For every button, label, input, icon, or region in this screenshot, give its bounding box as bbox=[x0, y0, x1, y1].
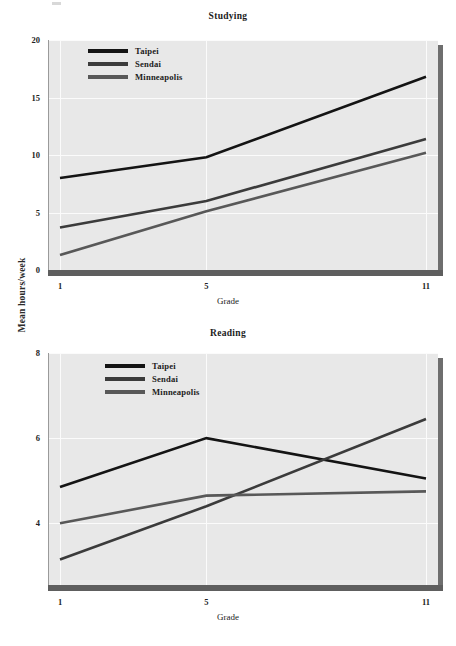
legend-label: Minneapolis bbox=[135, 72, 183, 82]
x-tick-label: 11 bbox=[411, 281, 441, 291]
legend-studying[interactable]: TaipeiSendaiMinneapolis bbox=[88, 44, 183, 83]
series-line-sendai bbox=[60, 419, 426, 559]
x-tick-label: 1 bbox=[45, 597, 75, 607]
legend-swatch-icon bbox=[88, 75, 128, 79]
y-tick-label: 6 bbox=[14, 433, 40, 443]
legend-swatch-icon bbox=[105, 377, 145, 381]
legend-swatch-icon bbox=[88, 62, 128, 66]
legend-item-sendai[interactable]: Sendai bbox=[88, 57, 183, 70]
legend-item-minneapolis[interactable]: Minneapolis bbox=[105, 385, 200, 398]
x-axis-label-reading: Grade bbox=[0, 612, 456, 622]
y-tick-label: 20 bbox=[14, 35, 40, 45]
y-axis-spine bbox=[48, 353, 49, 585]
x-axis-bar bbox=[48, 585, 443, 591]
chart-title-reading: Reading bbox=[0, 328, 456, 338]
y-tick-label: 0 bbox=[14, 265, 40, 275]
series-line-taipei bbox=[60, 77, 426, 178]
x-tick-label: 5 bbox=[191, 281, 221, 291]
x-axis-label-studying: Grade bbox=[0, 296, 456, 306]
x-tick-label: 5 bbox=[191, 597, 221, 607]
y-axis-spine bbox=[48, 40, 49, 270]
legend-item-sendai[interactable]: Sendai bbox=[105, 372, 200, 385]
x-axis-bar bbox=[48, 270, 443, 276]
legend-item-taipei[interactable]: Taipei bbox=[88, 44, 183, 57]
legend-swatch-icon bbox=[105, 364, 145, 368]
y-tick-label: 15 bbox=[14, 93, 40, 103]
chart-studying: Studying 05101520 1511 Grade TaipeiSenda… bbox=[0, 0, 456, 320]
y-tick-label: 5 bbox=[14, 208, 40, 218]
series-line-sendai bbox=[60, 139, 426, 228]
x-tick-label: 11 bbox=[411, 597, 441, 607]
legend-label: Sendai bbox=[152, 374, 178, 384]
legend-item-taipei[interactable]: Taipei bbox=[105, 359, 200, 372]
series-line-minneapolis bbox=[60, 153, 426, 255]
series-line-minneapolis bbox=[60, 491, 426, 523]
legend-label: Taipei bbox=[152, 361, 176, 371]
figure-canvas: Mean hours/week Studying 05101520 1511 G… bbox=[0, 0, 456, 646]
legend-swatch-icon bbox=[88, 49, 128, 53]
legend-label: Minneapolis bbox=[152, 387, 200, 397]
y-tick-label: 10 bbox=[14, 150, 40, 160]
legend-swatch-icon bbox=[105, 390, 145, 394]
y-tick-label: 4 bbox=[14, 518, 40, 528]
legend-item-minneapolis[interactable]: Minneapolis bbox=[88, 70, 183, 83]
legend-reading[interactable]: TaipeiSendaiMinneapolis bbox=[105, 359, 200, 398]
chart-title-studying: Studying bbox=[0, 11, 456, 21]
legend-label: Sendai bbox=[135, 59, 161, 69]
chart-reading: Reading 468 1511 Grade TaipeiSendaiMinne… bbox=[0, 326, 456, 646]
y-tick-label: 8 bbox=[14, 348, 40, 358]
series-line-taipei bbox=[60, 438, 426, 487]
legend-label: Taipei bbox=[135, 46, 159, 56]
x-tick-label: 1 bbox=[45, 281, 75, 291]
